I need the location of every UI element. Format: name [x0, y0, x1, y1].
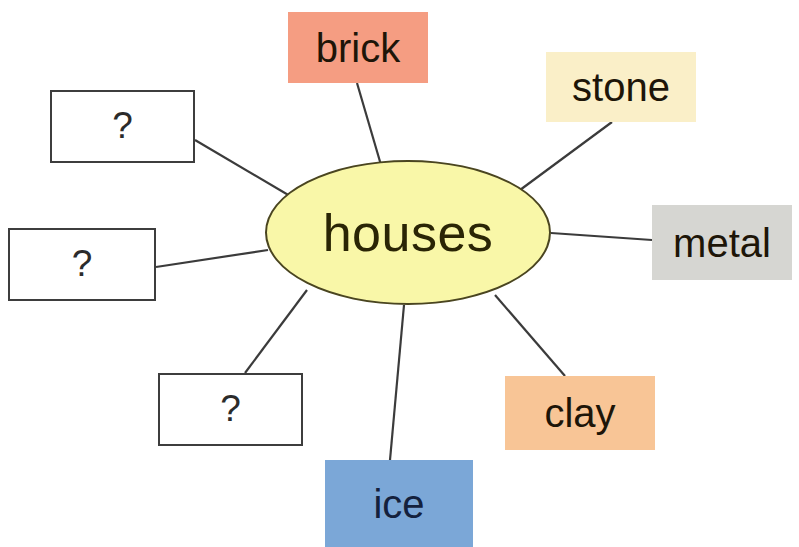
edge-houses-to-ice [390, 305, 404, 460]
edge-houses-to-unknown-1 [195, 140, 290, 196]
node-metal[interactable]: metal [652, 205, 792, 280]
node-ice[interactable]: ice [325, 460, 473, 547]
node-clay-label: clay [544, 393, 615, 433]
node-brick[interactable]: brick [288, 12, 428, 83]
node-unknown-3[interactable]: ? [158, 373, 303, 446]
node-unknown-3-label: ? [220, 390, 241, 427]
edge-houses-to-unknown-2 [156, 250, 268, 267]
node-unknown-2-label: ? [72, 245, 93, 282]
central-node-houses[interactable]: houses [265, 160, 551, 305]
central-node-label: houses [323, 203, 494, 263]
node-stone[interactable]: stone [546, 52, 696, 122]
node-metal-label: metal [673, 223, 771, 263]
node-unknown-1-label: ? [112, 107, 133, 144]
edge-houses-to-stone [520, 122, 612, 190]
edge-houses-to-brick [357, 83, 381, 165]
node-ice-label: ice [373, 484, 424, 524]
node-clay[interactable]: clay [505, 376, 655, 450]
edge-houses-to-metal [551, 233, 652, 240]
node-unknown-2[interactable]: ? [8, 228, 156, 301]
edge-houses-to-clay [495, 295, 565, 376]
edge-houses-to-unknown-3 [245, 290, 307, 373]
node-stone-label: stone [572, 67, 670, 107]
node-unknown-1[interactable]: ? [50, 90, 195, 163]
node-brick-label: brick [316, 28, 400, 68]
concept-map-canvas: houses ?brickstonemetalclayice?? [0, 0, 799, 547]
